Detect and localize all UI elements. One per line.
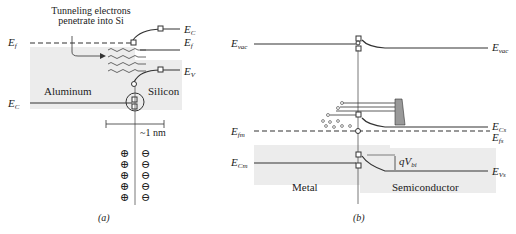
negative-charges: ⊖⊖⊖⊖⊖ — [141, 148, 150, 203]
positive-charges: ⊕⊕⊕⊕⊕ — [120, 148, 129, 203]
tunneling-annotation: Tunneling electrons penetrate into Si — [36, 6, 146, 26]
label-evac-right: Evac — [492, 42, 508, 55]
width-label: ~1 nm — [140, 128, 166, 138]
metal-label: Metal — [292, 182, 318, 193]
caption-a: (a) — [98, 212, 110, 223]
label-qvbi: qVbi — [399, 156, 417, 169]
label-ef-right: Ef — [184, 37, 193, 50]
annotation-line-2: penetrate into Si — [36, 16, 146, 26]
label-efs: Efs — [492, 132, 503, 145]
label-ef-left: Ef — [8, 37, 17, 50]
band-diagram-graphics — [0, 0, 516, 234]
label-evac-left: Evac — [231, 38, 247, 51]
label-efm: Efm — [231, 126, 245, 139]
label-evs: EVs — [492, 166, 506, 179]
aluminum-label: Aluminum — [44, 86, 92, 97]
semiconductor-label: Semiconductor — [392, 182, 459, 193]
label-ec-left: EC — [8, 98, 19, 111]
label-ev-right: EV — [184, 66, 195, 79]
silicon-label: Silicon — [148, 86, 179, 97]
electron-distribution — [395, 99, 405, 125]
caption-b: (b) — [353, 212, 365, 223]
label-ecm: ECm — [231, 157, 247, 170]
